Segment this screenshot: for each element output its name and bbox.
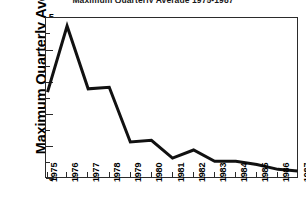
data-series-line xyxy=(46,18,299,179)
x-tick-label-1980: 1980 xyxy=(154,171,164,182)
plot-area xyxy=(45,17,298,178)
x-tick-label-1975: 1975 xyxy=(49,171,59,182)
x-tick-label-1984: 1984 xyxy=(239,171,249,182)
x-tick-label-1983: 1983 xyxy=(218,171,228,182)
x-tick-label-1985: 1985 xyxy=(260,171,270,182)
x-tick-label-1986: 1986 xyxy=(281,171,291,182)
x-tick-label-1979: 1979 xyxy=(133,171,143,182)
x-tick-label-1982: 1982 xyxy=(197,171,207,182)
x-tick-label-1987: 1987 xyxy=(302,171,306,182)
x-tick-label-1976: 1976 xyxy=(70,171,80,182)
x-tick-label-1977: 1977 xyxy=(91,171,101,182)
x-tick-label-1981: 1981 xyxy=(176,171,186,182)
x-tick-label-1978: 1978 xyxy=(112,171,122,182)
chart-figure: Maximum Quarterly Average 1975-1987 Maxi… xyxy=(0,0,306,213)
